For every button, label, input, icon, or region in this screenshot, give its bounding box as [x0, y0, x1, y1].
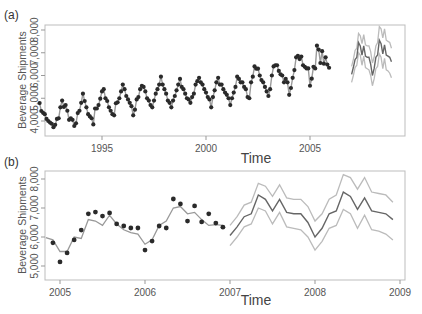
x-tick-label: 1995 [91, 143, 114, 154]
observed-point [251, 75, 255, 79]
observed-point [164, 226, 169, 231]
observed-point [214, 80, 218, 84]
observed-point [65, 109, 69, 113]
panel-a-x-axis: 199520002005 [91, 136, 322, 154]
observed-point [143, 248, 148, 253]
observed-point [178, 77, 182, 81]
observed-point [213, 88, 217, 92]
observed-point [164, 92, 168, 96]
observed-point [211, 95, 215, 99]
panel-b-label: (b) [4, 155, 19, 169]
observed-point [72, 238, 77, 243]
observed-point [265, 89, 269, 93]
observed-point [84, 105, 88, 109]
observed-point [270, 73, 274, 77]
observed-point [308, 84, 312, 88]
fitted-line [46, 207, 223, 252]
observed-point [171, 197, 176, 202]
observed-point [268, 87, 272, 91]
observed-point [299, 55, 303, 59]
x-tick-label: 2005 [299, 143, 322, 154]
observed-point [275, 63, 279, 67]
observed-point [285, 80, 289, 84]
panel-a-label: (a) [4, 8, 19, 22]
observed-point [141, 85, 145, 89]
observed-point [167, 101, 171, 105]
observed-point [315, 44, 319, 48]
observed-point [65, 251, 70, 256]
observed-point [306, 66, 310, 70]
observed-point [70, 118, 74, 122]
observed-line [40, 46, 329, 127]
y-tick-label: 6,000 [29, 63, 40, 88]
observed-point [292, 68, 296, 72]
observed-point [83, 99, 87, 103]
observed-point [256, 67, 260, 71]
observed-point [230, 96, 234, 100]
x-tick-label: 2000 [195, 143, 218, 154]
observed-point [159, 75, 163, 79]
observed-point [232, 90, 236, 94]
observed-point [136, 95, 140, 99]
observed-point [93, 210, 98, 215]
observed-point [228, 103, 232, 107]
observed-point [121, 83, 125, 87]
observed-point [107, 211, 112, 216]
panel-b-series [46, 175, 393, 265]
observed-point [174, 88, 178, 92]
x-tick-label: 2009 [389, 287, 412, 298]
observed-point [57, 116, 61, 120]
observed-point [249, 80, 253, 84]
observed-point [121, 224, 126, 229]
observed-point [289, 86, 293, 90]
observed-point [181, 87, 185, 91]
x-tick-label: 2007 [219, 287, 242, 298]
observed-point [53, 123, 57, 127]
observed-point [323, 55, 327, 59]
observed-point [128, 226, 133, 231]
x-tick-label: 2005 [49, 287, 72, 298]
observed-point [38, 101, 42, 105]
observed-point [207, 97, 211, 101]
observed-point [291, 76, 295, 80]
panel-b-y-axis-title: Beverage Shipments [16, 176, 28, 273]
observed-point [112, 113, 116, 117]
observed-point [287, 93, 291, 97]
observed-point [204, 90, 208, 94]
observed-point [102, 87, 106, 91]
panel-a-y-axis: 4,0005,0006,0007,0008,000 [29, 17, 45, 133]
observed-point [155, 87, 159, 91]
observed-point [318, 61, 322, 65]
observed-point [280, 73, 284, 77]
observed-point [77, 109, 81, 113]
observed-point [58, 260, 63, 265]
observed-point [147, 98, 151, 102]
observed-point [240, 80, 244, 84]
observed-point [74, 121, 78, 125]
observed-point [143, 89, 147, 93]
observed-point [81, 92, 85, 96]
observed-point [197, 76, 201, 80]
observed-point [133, 108, 137, 112]
y-tick-label: 5,000 [29, 253, 40, 278]
observed-point [157, 224, 162, 229]
observed-point [192, 204, 197, 209]
observed-point [89, 116, 93, 120]
observed-point [91, 122, 95, 126]
observed-point [115, 100, 119, 104]
y-tick-label: 8,000 [29, 17, 40, 42]
panel-b: (b) 5,0006,0007,0008,000 200520062007200… [4, 155, 412, 308]
observed-point [117, 96, 121, 100]
y-tick-label: 5,000 [29, 85, 40, 110]
observed-point [136, 226, 141, 231]
observed-point [79, 228, 84, 233]
observed-point [206, 211, 211, 216]
observed-point [188, 101, 192, 105]
panel-a-plot-frame [45, 25, 405, 136]
panel-b-y-axis: 5,0006,0007,0008,000 [29, 166, 45, 278]
y-tick-label: 8,000 [29, 166, 40, 191]
panel-a-y-axis-title: Beverage Shipments [16, 31, 28, 128]
observed-point [161, 83, 165, 87]
observed-point [310, 77, 314, 81]
observed-point [105, 99, 109, 103]
